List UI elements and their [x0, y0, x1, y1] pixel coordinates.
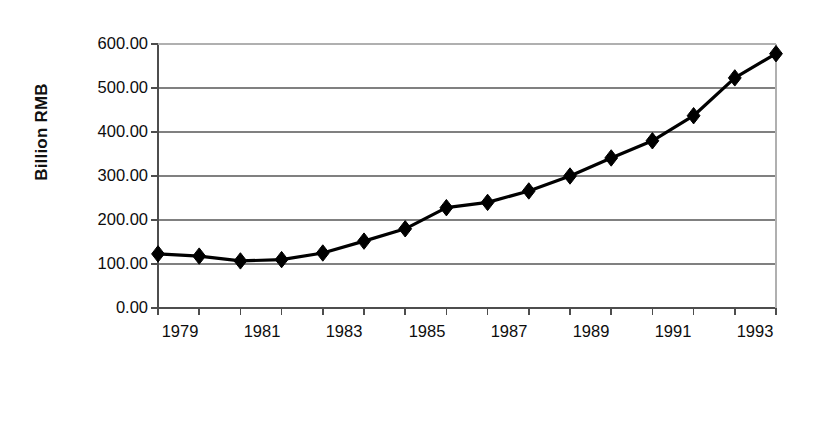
chart-figure: Billion RMB 600.00 500.00 400.00 300.00 … — [0, 0, 820, 442]
data-point-markers — [152, 45, 783, 269]
y-tick-marks — [151, 44, 158, 308]
gridlines — [158, 44, 776, 264]
plot-area — [0, 0, 820, 442]
x-tick-marks — [158, 308, 776, 315]
data-line-series-1 — [158, 54, 776, 261]
